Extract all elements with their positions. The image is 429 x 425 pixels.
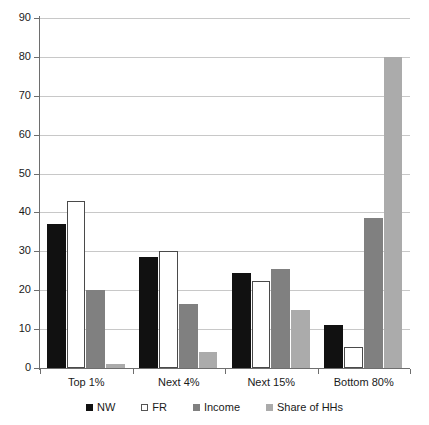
legend-swatch-icon [86,404,93,411]
bar [384,57,403,368]
legend-swatch-icon [193,404,200,411]
y-axis-tick-label: 0 [5,362,31,373]
y-axis-tick-label: 40 [5,206,31,217]
bar [159,251,178,368]
chart-legend: NWFRIncomeShare of HHs [0,402,429,413]
x-axis-tick-label: Bottom 80% [318,376,411,388]
y-axis-tick-label: 70 [5,90,31,101]
bar [271,269,290,368]
y-axis-tick-mark [34,18,40,19]
bar [344,347,363,368]
y-axis-labels: 9080706050403020100 [0,0,31,425]
bar [252,281,271,369]
y-axis-tick-label: 60 [5,129,31,140]
bar [139,257,158,368]
y-axis-tick-label: 90 [5,12,31,23]
legend-item: FR [141,402,167,413]
y-axis-tick-mark [34,251,40,252]
legend-item: Income [193,402,240,413]
legend-item: Share of HHs [266,402,343,413]
x-axis-tick-label: Top 1% [40,376,133,388]
bar [364,218,383,368]
y-axis-line [39,16,40,370]
y-axis-tick-mark [34,96,40,97]
legend-label: NW [97,402,115,413]
bar-group [324,18,403,368]
x-axis-tick-mark [40,369,41,374]
legend-label: Income [204,402,240,413]
bar-group [232,18,311,368]
y-axis-tick-mark [34,368,40,369]
legend-swatch-icon [266,404,273,411]
y-axis-tick-label: 30 [5,245,31,256]
bar-group-bars [139,18,218,368]
bar [291,310,310,368]
y-axis-tick-label: 20 [5,284,31,295]
bar-group [47,18,126,368]
legend-item: NW [86,402,115,413]
x-axis-tick-mark [225,369,226,374]
y-axis-tick-label: 80 [5,51,31,62]
x-axis-tick-mark [410,369,411,374]
legend-label: Share of HHs [277,402,343,413]
bar-chart: 9080706050403020100 Top 1%Next 4%Next 15… [0,0,429,425]
bar [47,224,66,368]
x-axis-tick-label: Next 15% [225,376,318,388]
bar-group-bars [324,18,403,368]
bar-group-bars [47,18,126,368]
y-axis-tick-label: 10 [5,323,31,334]
y-axis-tick-label: 50 [5,168,31,179]
bar [67,201,86,368]
bar [86,290,105,368]
y-axis-tick-mark [34,174,40,175]
bar [232,273,251,368]
legend-swatch-icon [141,404,148,411]
plot-area [40,18,410,368]
bar [199,352,218,368]
legend-label: FR [152,402,167,413]
x-axis-tick-mark [318,369,319,374]
y-axis-tick-mark [34,290,40,291]
y-axis-tick-mark [34,135,40,136]
y-axis-tick-mark [34,212,40,213]
bar [179,304,198,368]
y-axis-tick-mark [34,329,40,330]
x-axis-tick-label: Next 4% [133,376,226,388]
bar-group-bars [232,18,311,368]
bar-group [139,18,218,368]
x-axis-tick-mark [133,369,134,374]
y-axis-tick-mark [34,57,40,58]
bar [324,325,343,368]
